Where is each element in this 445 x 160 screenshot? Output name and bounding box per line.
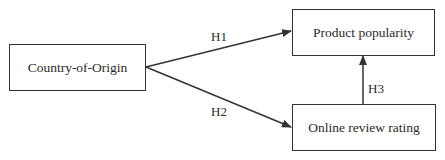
edge-label-h2: H2 xyxy=(211,104,227,120)
node-label: Country-of-Origin xyxy=(28,60,128,76)
node-label: Product popularity xyxy=(313,25,414,41)
node-label: Online review rating xyxy=(308,120,420,136)
edge-label-h3: H3 xyxy=(368,81,384,97)
node-online-review-rating: Online review rating xyxy=(292,104,436,151)
node-country-of-origin: Country-of-Origin xyxy=(9,44,146,91)
node-product-popularity: Product popularity xyxy=(292,9,435,56)
edge-label-h1: H1 xyxy=(211,29,227,45)
